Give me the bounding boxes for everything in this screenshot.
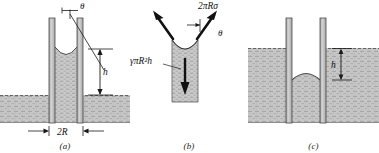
diameter-label: 2R bbox=[57, 127, 68, 137]
surface-tension-arrow-left bbox=[153, 11, 173, 40]
panel-a-capillary-rise: θ h 2R (a) bbox=[0, 0, 130, 153]
h-arrow-down bbox=[97, 89, 102, 95]
tube-liquid-column bbox=[55, 47, 77, 123]
theta-tick-arrow-b bbox=[196, 23, 201, 27]
capillary-action-figure: θ h 2R (a) bbox=[0, 0, 379, 153]
panel-c-capillary-depression: h (c) bbox=[248, 0, 379, 153]
h-arrow-up bbox=[97, 49, 102, 55]
diameter-arrow-right bbox=[83, 129, 89, 134]
panel-c-diagram: h bbox=[248, 0, 379, 140]
tube-wall-left-c bbox=[286, 18, 292, 123]
tube-wall-right-c bbox=[320, 18, 326, 123]
theta-label-b: θ bbox=[218, 28, 223, 38]
panel-b-caption: (b) bbox=[130, 141, 248, 151]
h-label-c: h bbox=[331, 60, 336, 70]
h-label-a: h bbox=[103, 67, 108, 77]
panel-c-caption: (c) bbox=[248, 141, 379, 151]
panel-b-force-balance: θ 2πRσ γπR²h (b) bbox=[130, 0, 248, 153]
panel-b-diagram: θ 2πRσ γπR²h bbox=[130, 0, 248, 140]
diameter-arrow-left bbox=[44, 129, 50, 134]
weight-label: γπR²h bbox=[130, 56, 152, 66]
theta-label-a: θ bbox=[80, 1, 85, 11]
tube-wall-left bbox=[49, 18, 55, 123]
panel-a-caption: (a) bbox=[0, 141, 130, 151]
panel-a-diagram: θ h 2R bbox=[0, 0, 130, 140]
surface-tension-label: 2πRσ bbox=[198, 1, 218, 11]
